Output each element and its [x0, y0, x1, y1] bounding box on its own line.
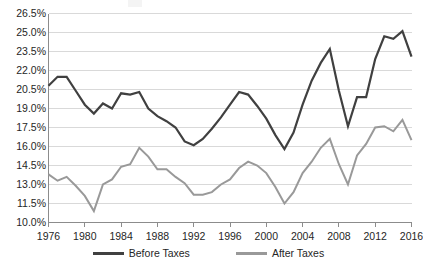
legend-line-swatch — [93, 252, 124, 255]
x-tick-label: 2012 — [364, 231, 387, 242]
legend-label: After Taxes — [272, 248, 324, 259]
x-tick-label: 2008 — [327, 231, 350, 242]
legend-line-swatch — [236, 252, 267, 255]
x-tick-label: 1976 — [37, 231, 60, 242]
legend-entry[interactable]: Before Taxes — [93, 248, 190, 259]
x-tick-label: 2000 — [255, 231, 278, 242]
chart-legend: Before TaxesAfter Taxes — [0, 248, 417, 259]
x-tick-label: 2004 — [291, 231, 314, 242]
x-tick-label: 1988 — [146, 231, 169, 242]
x-tick-label: 1996 — [218, 231, 241, 242]
x-tick-label: 1984 — [109, 231, 132, 242]
x-tick-label: 2016 — [400, 231, 423, 242]
x-tick-label: 1992 — [182, 231, 205, 242]
legend-label: Before Taxes — [129, 248, 190, 259]
legend-entry[interactable]: After Taxes — [236, 248, 324, 259]
x-tick-label: 1980 — [73, 231, 96, 242]
